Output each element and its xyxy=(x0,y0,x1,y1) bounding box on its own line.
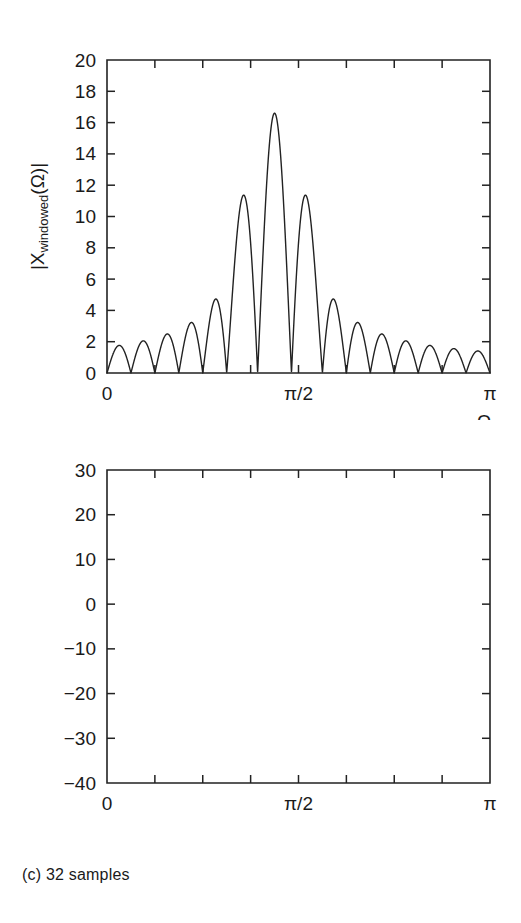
x-axis-tick-labels: 0π/2π xyxy=(102,793,497,814)
x-tick-label: 0 xyxy=(102,383,113,404)
y-tick-label: −40 xyxy=(64,773,96,794)
y-tick-label: −30 xyxy=(64,728,96,749)
chart-magnitude-spectrum: 02468101214161820 0π/2π |Xwindowed(Ω)| Ω xyxy=(0,20,521,420)
axis-ticks xyxy=(107,60,490,373)
y-tick-label: 4 xyxy=(85,300,96,321)
log-magnitude-plot-svg: −40−30−20−100102030 0π/2π xyxy=(0,430,521,830)
x-axis-title: Ω xyxy=(477,411,491,420)
x-tick-label: π xyxy=(483,383,496,404)
chart-log-magnitude-spectrum: −40−30−20−100102030 0π/2π xyxy=(0,430,521,830)
x-tick-label: π xyxy=(483,793,496,814)
y-tick-label: 12 xyxy=(75,175,96,196)
plot-frame xyxy=(107,60,490,373)
y-tick-label: −10 xyxy=(64,638,96,659)
y-tick-label: 8 xyxy=(85,237,96,258)
y-tick-label: 30 xyxy=(75,460,96,481)
y-tick-label: 16 xyxy=(75,112,96,133)
x-tick-label: 0 xyxy=(102,793,113,814)
y-tick-label: 0 xyxy=(85,363,96,384)
figure-container: 02468101214161820 0π/2π |Xwindowed(Ω)| Ω… xyxy=(0,0,521,923)
x-tick-label: π/2 xyxy=(284,383,313,404)
magnitude-plot-svg: 02468101214161820 0π/2π |Xwindowed(Ω)| Ω xyxy=(0,20,521,420)
y-tick-label: 6 xyxy=(85,269,96,290)
figure-caption: (c) 32 samples xyxy=(22,866,130,884)
y-tick-label: 18 xyxy=(75,81,96,102)
y-tick-label: 20 xyxy=(75,504,96,525)
y-tick-label: 2 xyxy=(85,331,96,352)
y-axis-title: |Xwindowed(Ω)| xyxy=(27,163,51,270)
x-axis-tick-labels: 0π/2π xyxy=(102,383,497,404)
y-tick-label: 10 xyxy=(75,206,96,227)
y-axis-tick-labels: 02468101214161820 xyxy=(75,50,97,384)
y-tick-label: 10 xyxy=(75,549,96,570)
axis-ticks xyxy=(107,470,490,783)
y-tick-label: −20 xyxy=(64,683,96,704)
plot-frame xyxy=(107,470,490,783)
x-tick-label: π/2 xyxy=(284,793,313,814)
y-axis-tick-labels: −40−30−20−100102030 xyxy=(64,460,96,794)
spectrum-curve xyxy=(107,113,490,373)
y-tick-label: 14 xyxy=(75,143,97,164)
y-tick-label: 20 xyxy=(75,50,96,71)
y-tick-label: 0 xyxy=(85,594,96,615)
